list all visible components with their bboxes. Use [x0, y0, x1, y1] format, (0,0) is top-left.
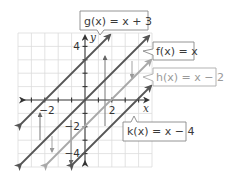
callout-h: h(x) = x − 2: [143, 68, 224, 86]
label-f: f(x) = x: [156, 45, 198, 58]
tick-x-neg2: −2: [39, 104, 54, 116]
line-h: [47, 60, 151, 164]
graph-of-linear-translations: −2 2 4 −2 −4 x y g(x) = x + 3 f(x) = x h…: [0, 0, 226, 177]
callout-f: f(x) = x: [143, 42, 198, 60]
label-k: k(x) = x − 4: [127, 125, 194, 138]
line-g: [21, 35, 110, 124]
callout-k: k(x) = x − 4: [123, 116, 194, 141]
tick-x-2: 2: [109, 104, 116, 116]
tick-y-neg2: −2: [65, 120, 80, 132]
label-g: g(x) = x + 3: [84, 15, 152, 28]
tick-y-neg4: −4: [65, 147, 81, 159]
tick-y-4: 4: [73, 40, 80, 52]
y-axis-label: y: [89, 31, 97, 43]
label-h: h(x) = x − 2: [156, 71, 224, 84]
x-axis-label: x: [143, 102, 149, 114]
